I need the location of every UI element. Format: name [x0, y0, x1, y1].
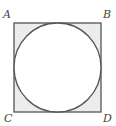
square-circle-diagram: A B C D: [0, 0, 116, 126]
label-c: C: [4, 112, 13, 125]
label-b: B: [102, 8, 111, 21]
label-a: A: [2, 8, 11, 21]
label-d: D: [102, 112, 112, 125]
inscribed-circle: [14, 23, 101, 112]
